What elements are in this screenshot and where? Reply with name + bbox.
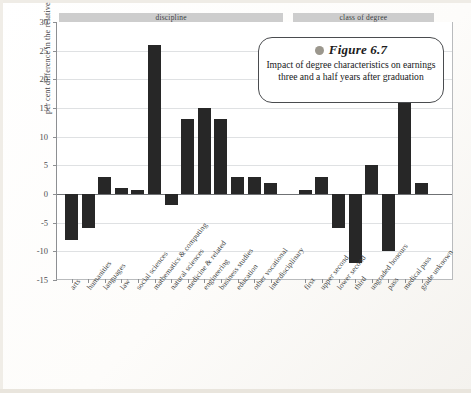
bar <box>131 190 144 195</box>
y-axis-tick <box>53 79 57 80</box>
y-axis-tick-label: 10 <box>10 132 48 142</box>
y-axis-tick-label: 30 <box>10 17 48 27</box>
y-axis-tick-label: -15 <box>10 275 48 285</box>
y-axis-tick <box>53 22 57 23</box>
y-axis-tick <box>53 251 57 252</box>
y-axis-tick <box>53 51 57 52</box>
bar <box>264 183 277 194</box>
circle-bullet-icon <box>315 46 324 55</box>
bar <box>365 165 378 194</box>
class-of-degree-band: class of degree <box>293 13 434 23</box>
bar <box>65 194 78 240</box>
figure-callout: Figure 6.7 Impact of degree characterist… <box>258 37 444 103</box>
page-edge-top <box>0 0 471 3</box>
y-axis-tick-label: 15 <box>10 103 48 113</box>
bar <box>248 177 261 194</box>
figure-caption: Impact of degree characteristics on earn… <box>259 59 443 84</box>
gridline <box>57 165 452 166</box>
page-edge-left <box>0 0 3 393</box>
bar <box>148 45 161 194</box>
bar <box>98 177 111 194</box>
y-axis-tick-label: -5 <box>10 218 48 228</box>
y-axis-tick-label: 5 <box>10 160 48 170</box>
callout-title-row: Figure 6.7 <box>259 42 443 58</box>
y-axis-tick-label: 20 <box>10 74 48 84</box>
y-axis-tick <box>53 223 57 224</box>
y-axis-tick <box>53 280 57 281</box>
bar <box>231 177 244 194</box>
bar <box>332 194 345 228</box>
discipline-band: discipline <box>59 13 283 23</box>
gridline <box>57 137 452 138</box>
y-axis-tick <box>53 165 57 166</box>
gridline <box>57 108 452 109</box>
bar <box>299 190 312 195</box>
bar <box>382 194 395 251</box>
bar <box>214 119 227 194</box>
y-axis-tick-label: 0 <box>10 189 48 199</box>
y-axis-tick <box>53 194 57 195</box>
y-axis-tick-label: -10 <box>10 246 48 256</box>
y-axis-tick <box>53 108 57 109</box>
bar <box>181 119 194 194</box>
figure-title: Figure 6.7 <box>329 42 387 58</box>
figure-container: disciplineclass of degree per cent diffe… <box>0 0 471 393</box>
page-edge-bottom <box>0 389 471 393</box>
bar <box>198 108 211 194</box>
bar <box>165 194 178 205</box>
bar <box>115 188 128 194</box>
bar <box>315 177 328 194</box>
bar <box>82 194 95 228</box>
y-axis-tick-label: 25 <box>10 46 48 56</box>
bar <box>415 183 428 194</box>
y-axis-tick <box>53 137 57 138</box>
